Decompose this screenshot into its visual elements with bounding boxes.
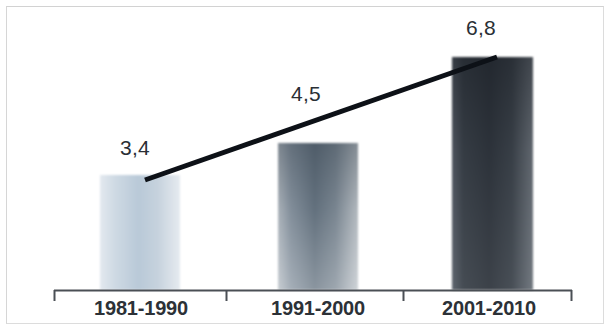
value-label-2001-2010: 6,8 [466,16,496,40]
x-axis-label-1991-2000: 1991-2000 [233,297,403,320]
value-label-1991-2000: 4,5 [291,82,321,106]
x-axis-label-1981-1990: 1981-1990 [56,297,226,320]
x-axis-label-2001-2010: 2001-2010 [404,297,574,320]
chart-container: 3,4 4,5 6,8 1981-1990 1991-2000 2001-201… [0,0,612,332]
value-label-1981-1990: 3,4 [120,136,150,160]
chart-svg-overlay [0,0,612,332]
trendline-annotation [145,57,497,180]
